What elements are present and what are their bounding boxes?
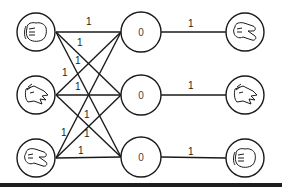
output-edges — [161, 32, 226, 158]
edge-label: 1 — [188, 146, 194, 157]
edge-m3-r3 — [161, 157, 226, 158]
edge-label: 1 — [84, 128, 90, 139]
edge-label: 1 — [86, 16, 92, 27]
edge-label: 1 — [62, 67, 68, 78]
left-node-scissors — [17, 139, 55, 177]
edge-label: 1 — [75, 81, 81, 92]
edge-label: 1 — [61, 127, 67, 138]
edge-label: 1 — [188, 80, 194, 91]
edge-label: 1 — [78, 145, 84, 156]
edge-l3-m3 — [56, 157, 121, 158]
node-value: 0 — [138, 152, 144, 163]
node-value: 0 — [138, 90, 144, 101]
middle-node-2: 0 — [121, 75, 161, 115]
edge-label: 1 — [77, 37, 83, 48]
middle-node-3: 0 — [121, 137, 161, 177]
right-node-paper — [226, 76, 264, 114]
right-node-rock — [226, 139, 264, 177]
node-value: 0 — [138, 27, 144, 38]
left-node-rock — [17, 13, 55, 51]
left-node-paper — [17, 76, 55, 114]
network-diagram: 1 1 1 1 1 1 1 1 1 1 1 1 — [0, 0, 282, 187]
output-edge-labels: 1 1 1 — [188, 18, 194, 157]
input-edges — [56, 32, 121, 158]
edge-label: 1 — [75, 55, 81, 66]
right-node-scissors — [226, 13, 264, 51]
middle-node-1: 0 — [121, 12, 161, 52]
bottom-border — [0, 183, 282, 187]
edge-label: 1 — [84, 109, 90, 120]
edge-label: 1 — [188, 18, 194, 29]
